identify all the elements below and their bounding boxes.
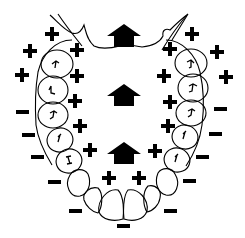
plus-sign-icon <box>163 42 177 56</box>
plus-sign-icon <box>157 69 171 83</box>
plus-sign-icon <box>102 171 116 185</box>
minus-sign-icon <box>183 174 197 188</box>
minus-sign-icon <box>16 105 30 119</box>
plus-sign-icon <box>148 144 162 158</box>
plus-sign-icon <box>185 27 199 41</box>
plus-sign-icon <box>45 27 59 41</box>
plus-sign-icon <box>219 70 233 84</box>
plus-sign-icon <box>132 171 146 185</box>
minus-sign-icon <box>117 219 131 233</box>
arrow-up-icon-middle <box>107 84 141 106</box>
plus-sign-icon <box>83 143 97 157</box>
plus-sign-icon <box>70 43 84 57</box>
plus-sign-icon <box>70 69 84 83</box>
arrow-up-icon-top <box>107 24 141 47</box>
minus-sign-icon <box>196 150 210 164</box>
tooth-left-central-incisor <box>99 190 124 221</box>
left-palate-line <box>58 14 82 46</box>
minus-sign-icon <box>209 127 223 141</box>
minus-sign-icon <box>31 150 45 164</box>
minus-sign-icon <box>48 175 62 189</box>
plus-sign-icon <box>15 68 29 82</box>
arch-drawing <box>0 0 245 238</box>
tooth-left-2 <box>38 76 68 104</box>
tooth-left-1 <box>41 50 73 78</box>
plus-sign-icon <box>68 94 82 108</box>
plus-sign-icon <box>210 45 224 59</box>
plus-sign-icon <box>23 44 37 58</box>
plus-sign-icon <box>73 119 87 133</box>
tooth-right-lateral-incisor <box>144 186 161 212</box>
minus-sign-icon <box>22 128 36 142</box>
arrow-up-icon-bottom <box>107 142 141 164</box>
plus-sign-icon <box>163 95 177 109</box>
plus-sign-icon <box>161 119 175 133</box>
minus-sign-icon <box>164 204 178 218</box>
dental-arch-diagram <box>0 0 245 238</box>
minus-sign-icon <box>214 102 228 116</box>
tooth-left-4 <box>44 125 75 155</box>
minus-sign-icon <box>69 204 83 218</box>
